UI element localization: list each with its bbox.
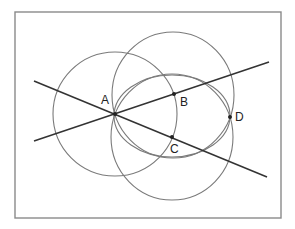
point-a (113, 112, 117, 116)
point-c (170, 135, 174, 139)
point-b (172, 92, 176, 96)
point-label-c: C (170, 142, 179, 156)
point-label-a: A (101, 93, 109, 107)
point-label-b: B (180, 95, 188, 109)
geometry-diagram: A B C D (0, 0, 295, 229)
point-d (228, 115, 232, 119)
point-label-d: D (235, 110, 244, 124)
